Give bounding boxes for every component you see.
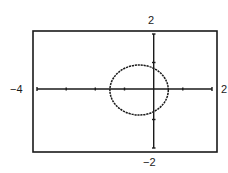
x-max-label: 2	[221, 83, 227, 95]
viewing-window-frame	[33, 31, 217, 152]
x-min-label: −4	[10, 83, 23, 95]
graph-plot	[0, 0, 228, 173]
y-max-label: 2	[148, 14, 154, 26]
y-min-label: −2	[143, 156, 156, 168]
circle-graph	[110, 65, 168, 115]
